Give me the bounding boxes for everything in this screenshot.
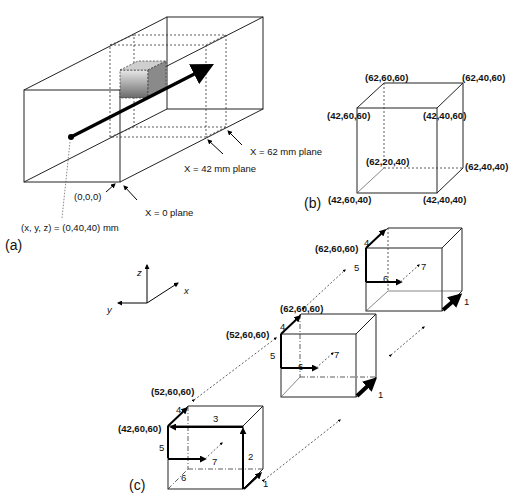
x-axis-label: x [183, 285, 190, 296]
start-point [68, 134, 74, 140]
panel-c: 4 5 6 7 1 (62,60,60) 4 5 6 7 [118, 228, 469, 493]
plane-x62-label: X = 62 mm plane [250, 146, 322, 157]
axes-triad: z x y [106, 265, 190, 315]
svg-text:5: 5 [270, 350, 275, 361]
corner-62-40-40: (62,40,40) [465, 161, 508, 172]
transition-1-2 [194, 338, 276, 400]
z-axis-label: z [136, 267, 142, 278]
corner-62-40-60: (62,40,60) [462, 72, 505, 83]
corner-42-60-40: (42,60,40) [328, 194, 371, 205]
target-cube [120, 70, 148, 98]
panel-a-label: (a) [5, 237, 22, 253]
corner-62-60-60: (62,60,60) [365, 72, 408, 83]
svg-text:4: 4 [176, 404, 181, 415]
svg-text:4: 4 [364, 237, 369, 248]
svg-text:3: 3 [213, 413, 218, 424]
cube-3: 4 5 6 7 1 (62,60,60) [315, 228, 469, 311]
y-axis-label: y [106, 304, 113, 315]
start-point-label: (x, y, z) = (0,40,40) mm [21, 222, 119, 233]
cube2-corner-back-label: (62,60,60) [280, 303, 323, 314]
svg-text:7: 7 [334, 349, 339, 360]
cube-2: 4 5 6 7 1 (62,60,60) (52,60,60) [226, 303, 383, 400]
svg-text:1: 1 [464, 296, 469, 307]
cube-1: 4 3 2 5 6 7 1 (52,60,60) (42,60,60) [118, 386, 268, 489]
transition-1-2-bottom [264, 420, 340, 480]
panel-b-label: (b) [304, 195, 321, 211]
transition-2-3-bottom [391, 327, 424, 355]
svg-text:2: 2 [248, 451, 253, 462]
corner-42-40-60: (42,40,60) [423, 110, 466, 121]
cube3-corner-label: (62,60,60) [315, 243, 358, 254]
cube2-corner-front-label: (52,60,60) [226, 329, 269, 340]
svg-text:6: 6 [181, 472, 186, 483]
cube1-corner-front-label: (42,60,60) [118, 423, 161, 434]
panel-c-label: (c) [129, 477, 145, 493]
origin-label: (0,0,0) [74, 191, 101, 202]
svg-text:1: 1 [378, 389, 383, 400]
cube1-corner-back-label: (52,60,60) [151, 386, 194, 397]
corner-42-40-40: (42,40,40) [423, 194, 466, 205]
plane-x0-label: X = 0 plane [145, 207, 193, 218]
svg-text:7: 7 [421, 261, 426, 272]
plane-x42-label: X = 42 mm plane [184, 163, 256, 174]
transition-2-3 [304, 270, 345, 308]
panel-a: (0,0,0) X = 0 plane X = 42 mm plane X = … [5, 17, 322, 253]
svg-text:5: 5 [354, 262, 359, 273]
svg-text:4: 4 [280, 321, 285, 332]
svg-text:6: 6 [298, 361, 303, 372]
svg-text:6: 6 [383, 273, 388, 284]
svg-text:7: 7 [212, 456, 217, 467]
x-axis-arrow [147, 283, 178, 303]
panel-b: (62,60,60) (62,40,60) (42,60,60) (42,40,… [304, 72, 508, 211]
svg-text:5: 5 [159, 442, 164, 453]
corner-42-60-60: (42,60,60) [327, 110, 370, 121]
svg-text:1: 1 [263, 478, 268, 489]
corner-62-20-40: (62,20,40) [366, 156, 409, 167]
phantom-back-face [167, 17, 263, 109]
figure-canvas: (0,0,0) X = 0 plane X = 42 mm plane X = … [0, 0, 518, 504]
